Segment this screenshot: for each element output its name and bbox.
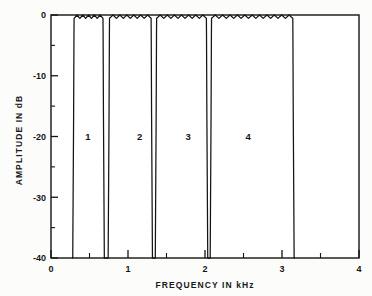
y-axis-title: AMPLITUDE IN dB (14, 95, 24, 186)
x-tick-label: 3 (279, 264, 284, 274)
x-tick-label: 2 (202, 264, 207, 274)
x-tick-label: 4 (356, 264, 361, 274)
filter-response-chart: 0-10-20-30-40 01234 1234 FREQUENCY IN kH… (0, 0, 372, 296)
passband-label-4: 4 (245, 131, 251, 142)
passband-label-3: 3 (185, 131, 190, 142)
x-tick-label: 0 (48, 264, 53, 274)
y-tick-label: -10 (33, 71, 46, 81)
plot-frame (51, 15, 359, 258)
x-axis-title: FREQUENCY IN kHz (155, 280, 254, 290)
y-tick-label: -30 (33, 193, 46, 203)
y-tick-label: -40 (33, 253, 46, 263)
passband-label-1: 1 (85, 131, 91, 142)
passband-label-2: 2 (137, 131, 142, 142)
x-axis-tick-labels: 01234 (48, 264, 361, 274)
figure-canvas: 0-10-20-30-40 01234 1234 FREQUENCY IN kH… (0, 0, 372, 296)
x-tick-label: 1 (125, 264, 130, 274)
y-tick-label: 0 (41, 10, 46, 20)
y-tick-label: -20 (33, 132, 46, 142)
y-axis-tick-labels: 0-10-20-30-40 (33, 10, 46, 263)
